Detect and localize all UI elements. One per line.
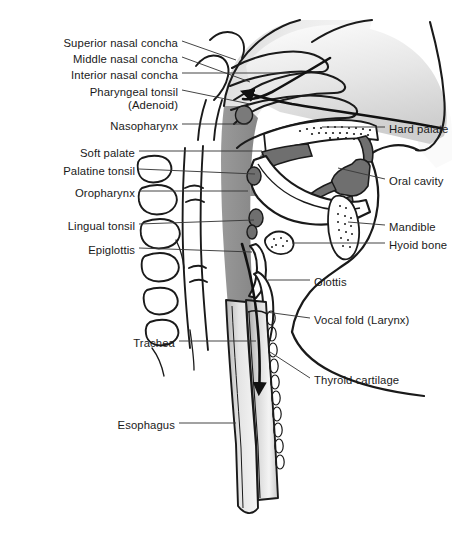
pharyngeal-tonsil-shape	[235, 106, 252, 124]
label-hyoid-bone: Hyoid bone	[389, 239, 447, 252]
label-lingual-tonsil: Lingual tonsil	[0, 220, 135, 233]
label-glottis: Glottis	[314, 276, 347, 289]
label-trachea: Trachea	[0, 337, 175, 350]
lingual-tonsil-shape	[249, 209, 263, 227]
label-hard-palate: Hard palate	[389, 123, 449, 136]
label-nasopharynx: Nasopharynx	[0, 120, 178, 133]
label-interior-nasal-concha: Interior nasal concha	[0, 69, 178, 82]
label-vocal-fold: Vocal fold (Larynx)	[314, 314, 409, 327]
label-oral-cavity: Oral cavity	[389, 175, 443, 188]
label-middle-nasal-concha: Middle nasal concha	[0, 53, 178, 66]
label-oropharynx: Oropharynx	[0, 187, 135, 200]
label-adenoid: (Adenoid)	[0, 99, 178, 112]
cervical-vertebrae	[138, 156, 180, 346]
palatine-tonsil-shape	[247, 167, 261, 185]
hyoid-bone	[265, 232, 294, 255]
label-superior-nasal-concha: Superior nasal concha	[0, 37, 178, 50]
label-palatine-tonsil: Palatine tonsil	[0, 165, 135, 178]
label-epiglottis: Epiglottis	[0, 244, 135, 257]
label-soft-palate: Soft palate	[0, 147, 135, 160]
label-mandible: Mandible	[389, 221, 436, 234]
label-thyroid-cartilage: Thyroid cartilage	[314, 374, 399, 387]
label-pharyngeal-tonsil: Pharyngeal tonsil	[0, 86, 178, 99]
anatomy-figure: Superior nasal concha Middle nasal conch…	[0, 0, 475, 538]
label-esophagus: Esophagus	[0, 419, 175, 432]
